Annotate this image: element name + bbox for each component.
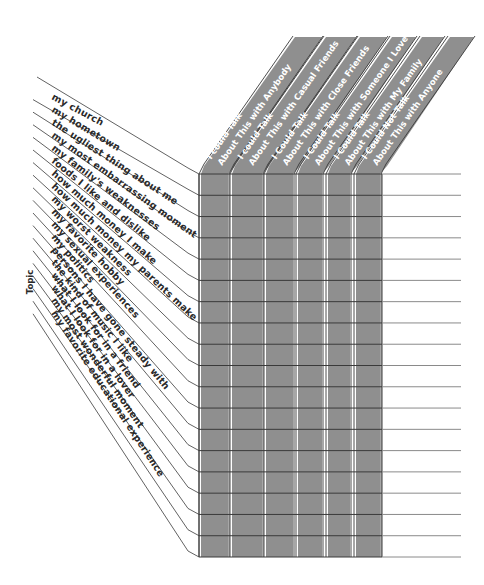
topic-axis-label: Topic [25,270,35,295]
topic-disclosure-worksheet: my churchmy hometownthe ugliest thing ab… [0,0,484,585]
topic-list: my churchmy hometownthe ugliest thing ab… [49,91,200,478]
column-headers: I could TalkAbout This with AnybodyI cou… [204,34,444,167]
